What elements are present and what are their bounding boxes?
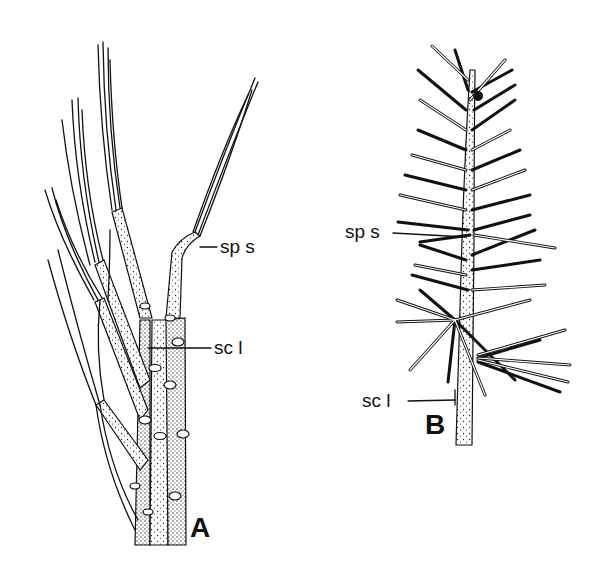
panel-b-drawing: [393, 46, 570, 445]
panel-b-spur-shoot-label: sp s: [345, 222, 380, 241]
botanical-figure: [0, 0, 606, 576]
panel-a-letter: A: [190, 514, 210, 542]
panel-a-scale-leaf-label: sc l: [214, 338, 243, 357]
panel-b-scale-leaf-label: sc l: [362, 391, 391, 410]
panel-a-spur-shoot-label: sp s: [220, 237, 255, 256]
panel-b-letter: B: [425, 411, 445, 439]
panel-a-drawing: [45, 42, 258, 545]
